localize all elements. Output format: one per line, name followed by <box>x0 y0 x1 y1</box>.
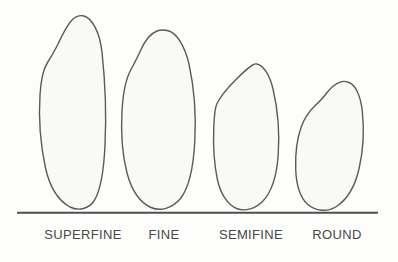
grain-outline-fine <box>122 30 196 209</box>
grain-outline-semifine <box>214 64 279 210</box>
label-fine: FINE <box>148 227 179 242</box>
grain-outline-superfine <box>40 16 106 210</box>
labels-row: SUPERFINE FINE SEMIFINE ROUND <box>0 227 398 245</box>
label-semifine: SEMIFINE <box>219 227 283 242</box>
label-superfine: SUPERFINE <box>44 227 122 242</box>
grain-shapes-canvas <box>0 0 398 262</box>
grain-fineness-figure: SUPERFINE FINE SEMIFINE ROUND <box>0 0 398 262</box>
grain-outline-round <box>296 81 364 210</box>
label-round: ROUND <box>312 227 361 242</box>
